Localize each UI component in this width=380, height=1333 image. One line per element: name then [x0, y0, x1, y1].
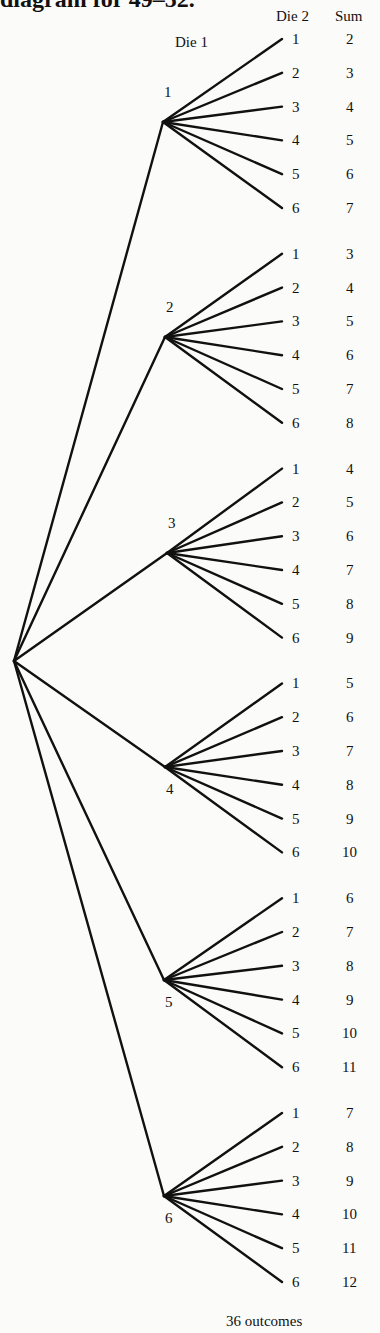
sum-label: 6	[346, 347, 354, 363]
die2-label: 2	[292, 924, 300, 940]
sum-label: 11	[342, 1059, 356, 1075]
sum-label: 8	[346, 596, 354, 612]
sum-label: 8	[346, 777, 354, 793]
die2-label: 5	[292, 381, 300, 397]
tree-diagram	[0, 0, 380, 1333]
sum-label: 9	[346, 630, 354, 646]
die2-label: 1	[292, 461, 300, 477]
branch-line-die2	[164, 980, 282, 1033]
die2-label: 3	[292, 99, 300, 115]
sum-label: 3	[346, 65, 354, 81]
sum-label: 3	[346, 246, 354, 262]
die2-label: 6	[292, 200, 300, 216]
branch-line-die2	[164, 1196, 282, 1282]
die2-label: 5	[292, 1025, 300, 1041]
sum-label: 6	[346, 166, 354, 182]
die2-label: 4	[292, 347, 300, 363]
sum-label: 6	[346, 709, 354, 725]
sum-label: 4	[346, 461, 354, 477]
die2-label: 4	[292, 562, 300, 578]
branch-line-die2	[164, 980, 282, 1067]
sum-label: 7	[346, 381, 354, 397]
sum-label: 9	[346, 992, 354, 1008]
die2-label: 4	[292, 992, 300, 1008]
sum-label: 2	[346, 31, 354, 47]
sum-label: 5	[346, 132, 354, 148]
sum-label: 4	[346, 99, 354, 115]
sum-label: 5	[346, 675, 354, 691]
branch-line-die2	[164, 1196, 282, 1214]
sum-label: 9	[346, 1173, 354, 1189]
die2-label: 2	[292, 494, 300, 510]
die2-label: 3	[292, 1173, 300, 1189]
sum-label: 6	[346, 528, 354, 544]
die1-label: 2	[166, 299, 174, 315]
die2-label: 5	[292, 596, 300, 612]
sum-label: 7	[346, 562, 354, 578]
sum-label: 5	[346, 313, 354, 329]
die2-label: 3	[292, 743, 300, 759]
die1-label: 1	[164, 84, 172, 100]
sum-label: 7	[346, 924, 354, 940]
sum-label: 8	[346, 958, 354, 974]
die2-label: 2	[292, 65, 300, 81]
die1-label: 5	[165, 994, 173, 1010]
sum-label: 10	[342, 844, 357, 860]
sum-label: 7	[346, 200, 354, 216]
branch-line-die1-3	[14, 553, 167, 661]
die2-label: 4	[292, 1206, 300, 1222]
die2-label: 6	[292, 844, 300, 860]
die2-label: 3	[292, 528, 300, 544]
die2-label: 5	[292, 1240, 300, 1256]
die1-label: 6	[165, 1210, 173, 1226]
sum-label: 7	[346, 1105, 354, 1121]
die2-label: 3	[292, 958, 300, 974]
sum-label: 4	[346, 280, 354, 296]
branch-line-die1-6	[14, 661, 164, 1196]
die2-label: 1	[292, 31, 300, 47]
die2-label: 2	[292, 280, 300, 296]
sum-label: 11	[342, 1240, 356, 1256]
sum-label: 12	[342, 1274, 357, 1290]
die2-label: 1	[292, 890, 300, 906]
sum-label: 8	[346, 1139, 354, 1155]
die2-label: 2	[292, 1139, 300, 1155]
die2-label: 6	[292, 1059, 300, 1075]
sum-label: 8	[346, 415, 354, 431]
die2-label: 1	[292, 675, 300, 691]
branch-line-die2	[163, 122, 282, 208]
die2-label: 3	[292, 313, 300, 329]
die1-label: 3	[168, 515, 176, 531]
die2-label: 4	[292, 777, 300, 793]
sum-label: 6	[346, 890, 354, 906]
branch-line-die2	[163, 122, 282, 140]
sum-label: 10	[342, 1025, 357, 1041]
die1-label: 4	[166, 781, 174, 797]
die2-label: 6	[292, 415, 300, 431]
die2-label: 4	[292, 132, 300, 148]
die2-label: 6	[292, 1274, 300, 1290]
sum-label: 7	[346, 743, 354, 759]
sum-label: 9	[346, 811, 354, 827]
branch-line-die2	[164, 980, 282, 1000]
outcomes-count: 36 outcomes	[226, 1313, 302, 1330]
sum-label: 5	[346, 494, 354, 510]
sum-label: 10	[342, 1206, 357, 1222]
die2-label: 1	[292, 1105, 300, 1121]
die2-label: 5	[292, 811, 300, 827]
die2-label: 2	[292, 709, 300, 725]
branch-line-die1-4	[14, 661, 165, 767]
die2-label: 1	[292, 246, 300, 262]
die2-label: 6	[292, 630, 300, 646]
die2-label: 5	[292, 166, 300, 182]
